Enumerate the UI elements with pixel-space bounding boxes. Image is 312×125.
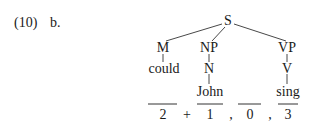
node-s: S — [224, 14, 232, 28]
example-sub-label: b. — [50, 16, 61, 30]
node-np: NP — [200, 41, 218, 55]
leaf-sing: sing — [276, 85, 299, 99]
node-m: M — [157, 41, 169, 55]
separator-plus: + — [183, 108, 191, 122]
slot-number-3: 0 — [247, 108, 254, 122]
separator-comma-2: , — [268, 108, 272, 122]
node-vp: VP — [278, 41, 296, 55]
slot-number-2: 1 — [207, 108, 214, 122]
node-n: N — [204, 62, 214, 76]
slot-number-4: 3 — [285, 108, 292, 122]
leaf-john: John — [197, 85, 223, 99]
slot-number-1: 2 — [160, 108, 167, 122]
node-v: V — [282, 62, 292, 76]
example-number: (10) — [14, 16, 37, 30]
separator-comma-1: , — [229, 108, 233, 122]
leaf-could: could — [148, 62, 179, 76]
